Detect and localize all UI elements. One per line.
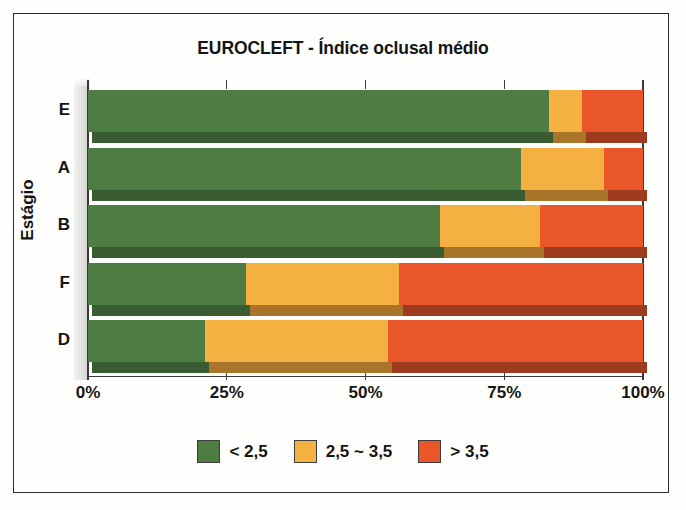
x-tick-label-75pct: 75% xyxy=(459,383,549,403)
y-axis-title: Estágio xyxy=(18,130,38,290)
bar-shadow-segment-e-s2 xyxy=(553,132,586,143)
x-tick-0pct xyxy=(87,370,88,380)
bar-row-d xyxy=(88,320,643,362)
bar-segment-f-s3 xyxy=(399,263,643,305)
chart-figure: EUROCLEFT - Índice oclusal médio 0%25%50… xyxy=(0,0,686,510)
bar-segment-a-s3 xyxy=(604,148,643,190)
y-category-label-e: E xyxy=(36,100,70,120)
legend-swatch-3 xyxy=(418,440,441,463)
bar-shadow-e xyxy=(92,132,647,143)
x-tick-label-25pct: 25% xyxy=(182,383,272,403)
bar-row-f xyxy=(88,263,643,305)
bar-shadow-segment-d-s3 xyxy=(392,362,647,373)
legend-label-2: 2,5 ~ 3,5 xyxy=(326,442,393,462)
bar-shadow-segment-f-s2 xyxy=(250,305,403,316)
bar-row-a xyxy=(88,148,643,190)
x-tick-label-0pct: 0% xyxy=(43,383,133,403)
bar-shadow-segment-b-s1 xyxy=(92,247,444,258)
bar-cap-f xyxy=(639,258,648,263)
page-title: EUROCLEFT - Índice oclusal médio xyxy=(0,38,686,59)
bar-shadow-segment-b-s3 xyxy=(544,247,647,258)
chart-legend: < 2,52,5 ~ 3,5> 3,5 xyxy=(0,440,686,463)
x-tick-top-50pct xyxy=(365,80,366,89)
bar-segment-b-s1 xyxy=(88,205,440,247)
bar-shadow-segment-a-s2 xyxy=(525,190,608,201)
bar-row-e xyxy=(88,90,643,132)
bar-segment-f-s2 xyxy=(246,263,399,305)
bar-segment-b-s3 xyxy=(540,205,643,247)
bar-shadow-segment-d-s2 xyxy=(209,362,392,373)
bar-cap-b xyxy=(639,200,648,205)
bar-cap-d xyxy=(639,315,648,320)
bar-shadow-segment-e-s1 xyxy=(92,132,553,143)
plot-side-wall xyxy=(74,84,88,380)
bar-cap-a xyxy=(639,143,648,148)
x-tick-top-25pct xyxy=(226,80,227,89)
bar-segment-e-s3 xyxy=(582,90,643,132)
bar-shadow-segment-e-s3 xyxy=(586,132,647,143)
legend-item-3[interactable]: > 3,5 xyxy=(418,440,488,463)
bar-segment-d-s1 xyxy=(88,320,205,362)
y-category-label-f: F xyxy=(36,273,70,293)
bar-shadow-a xyxy=(92,190,647,201)
bar-shadow-f xyxy=(92,305,647,316)
legend-label-1: < 2,5 xyxy=(229,442,267,462)
legend-item-2[interactable]: 2,5 ~ 3,5 xyxy=(294,440,393,463)
x-tick-label-100pct: 100% xyxy=(598,383,686,403)
legend-item-1[interactable]: < 2,5 xyxy=(197,440,267,463)
bar-shadow-segment-f-s3 xyxy=(403,305,647,316)
y-category-label-a: A xyxy=(36,158,70,178)
bar-segment-e-s1 xyxy=(88,90,549,132)
bar-segment-d-s3 xyxy=(388,320,643,362)
bar-segment-d-s2 xyxy=(205,320,388,362)
bar-shadow-d xyxy=(92,362,647,373)
bar-shadow-segment-a-s3 xyxy=(608,190,647,201)
bar-shadow-segment-d-s1 xyxy=(92,362,209,373)
bar-row-b xyxy=(88,205,643,247)
bar-segment-f-s1 xyxy=(88,263,246,305)
y-category-label-b: B xyxy=(36,215,70,235)
bar-segment-b-s2 xyxy=(440,205,540,247)
bar-shadow-segment-a-s1 xyxy=(92,190,525,201)
bar-shadow-b xyxy=(92,247,647,258)
bar-segment-e-s2 xyxy=(549,90,582,132)
legend-swatch-2 xyxy=(294,440,317,463)
legend-swatch-1 xyxy=(197,440,220,463)
x-tick-top-75pct xyxy=(504,80,505,89)
y-category-label-d: D xyxy=(36,330,70,350)
bar-segment-a-s2 xyxy=(521,148,604,190)
x-tick-top-0pct xyxy=(87,80,88,89)
bar-shadow-segment-f-s1 xyxy=(92,305,250,316)
legend-label-3: > 3,5 xyxy=(450,442,488,462)
x-tick-label-50pct: 50% xyxy=(321,383,411,403)
bar-shadow-segment-b-s2 xyxy=(444,247,544,258)
bar-segment-a-s1 xyxy=(88,148,521,190)
bar-cap-e xyxy=(639,85,648,90)
